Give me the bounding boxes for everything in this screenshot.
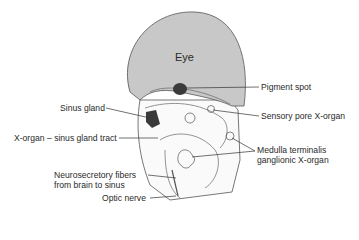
sensory-pore-label: Sensory pore X-organ [261,111,345,121]
neurosecretory-label-line1: Neurosecretory fibers [54,170,136,180]
optic-nerve-label: Optic nerve [102,193,146,203]
neurosecretory-label-line2: from brain to sinus [54,180,125,190]
sinus-gland-label: Sinus gland [60,103,105,113]
pigment-spot-label: Pigment spot [261,82,311,92]
medulla-label-line2: ganglionic X-organ [257,155,329,165]
medulla-label-line1: Medulla terminalis [257,145,326,155]
eye-label: Eye [175,51,194,63]
tract-label: X-organ – sinus gland tract [14,133,117,143]
pigment-spot-shape [173,83,187,95]
